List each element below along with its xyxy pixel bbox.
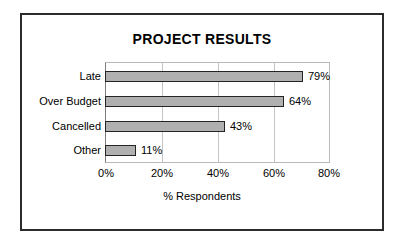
x-axis-title: % Respondents bbox=[22, 190, 382, 202]
bar-value-over-budget: 64% bbox=[289, 95, 311, 107]
x-tick-20: 20% bbox=[151, 167, 173, 179]
bar-value-cancelled: 43% bbox=[230, 120, 252, 132]
x-tick-60: 60% bbox=[263, 167, 285, 179]
bar-row-cancelled[interactable]: 43% bbox=[105, 120, 330, 132]
category-label-over-budget: Over Budget bbox=[22, 95, 101, 107]
category-label-late: Late bbox=[22, 70, 101, 82]
bar-value-other: 11% bbox=[141, 144, 162, 156]
bar-series: 79% 64% 43% 11% bbox=[105, 62, 330, 163]
bar-row-other[interactable]: 11% bbox=[105, 144, 330, 156]
plot-wrapper: 79% 64% 43% 11% bbox=[105, 62, 330, 163]
bar-cancelled[interactable] bbox=[105, 121, 225, 132]
bar-value-late: 79% bbox=[308, 70, 330, 82]
x-tick-80: 80% bbox=[318, 167, 340, 179]
chart-title: PROJECT RESULTS bbox=[22, 31, 382, 47]
x-axis-tick-labels: 0% 20% 40% 60% 80% bbox=[105, 167, 330, 183]
bar-late[interactable] bbox=[105, 71, 303, 82]
x-tick-0: 0% bbox=[98, 167, 114, 179]
category-label-cancelled: Cancelled bbox=[22, 120, 101, 132]
category-axis-labels: Late Over Budget Cancelled Other bbox=[22, 62, 101, 163]
bar-over-budget[interactable] bbox=[105, 96, 284, 107]
bar-row-over-budget[interactable]: 64% bbox=[105, 95, 330, 107]
chart-frame: PROJECT RESULTS Late Over Budget Cancell… bbox=[20, 13, 384, 231]
bar-row-late[interactable]: 79% bbox=[105, 70, 330, 82]
x-tick-40: 40% bbox=[207, 167, 229, 179]
category-label-other: Other bbox=[22, 144, 101, 156]
bar-other[interactable] bbox=[105, 145, 136, 156]
